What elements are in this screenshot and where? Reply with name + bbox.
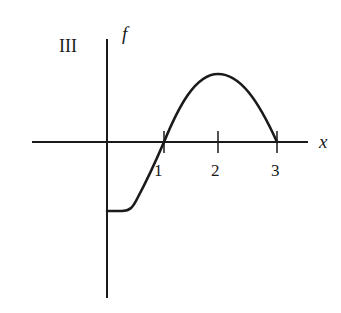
y-axis-label: f (122, 23, 130, 44)
x-tick-label-3: 3 (271, 161, 280, 180)
panel-label: III (59, 36, 77, 56)
x-tick-label-1: 1 (154, 161, 163, 180)
x-tick-label-2: 2 (211, 161, 220, 180)
x-axis-label: x (318, 131, 328, 152)
function-graph: III f x 1 2 3 (0, 0, 341, 313)
